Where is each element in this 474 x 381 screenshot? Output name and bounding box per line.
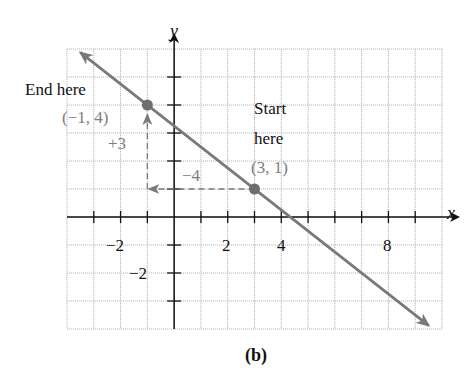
start-here-label-line1: Start [254, 100, 286, 117]
start-point-label: (3, 1) [251, 159, 288, 176]
coordinate-plane [0, 0, 474, 381]
x-tick-label-neg2: −2 [106, 237, 124, 254]
figure-caption: (b) [245, 346, 267, 364]
axes [67, 35, 458, 329]
x-tick-label-8: 8 [383, 237, 392, 254]
x-tick-label-4: 4 [277, 237, 286, 254]
x-tick-label-2: 2 [222, 237, 231, 254]
x-axis-label: x [447, 204, 455, 222]
rise-label: +3 [108, 135, 126, 152]
run-label: −4 [182, 167, 200, 184]
start-here-label-line2: here [254, 130, 283, 147]
y-axis-label: y [170, 22, 178, 40]
y-tick-label-neg2: −2 [129, 265, 147, 282]
end-here-label: End here [25, 81, 86, 98]
end-point-label: (−1, 4) [62, 109, 108, 126]
